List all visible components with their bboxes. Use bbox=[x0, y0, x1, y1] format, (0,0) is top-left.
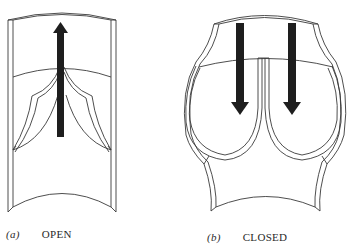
cusp-left bbox=[186, 66, 262, 160]
vessel-top-rim bbox=[214, 16, 318, 25]
panel-b-caption: (b)CLOSED bbox=[207, 231, 287, 243]
backflow-arrow-down-right-icon bbox=[283, 23, 301, 115]
backflow-arrow-down-left-icon bbox=[231, 23, 249, 115]
leaflet-left bbox=[13, 67, 60, 152]
panel-b-tag: (b) bbox=[207, 231, 221, 243]
panel-b-label: CLOSED bbox=[243, 231, 288, 243]
coaptation-line bbox=[258, 58, 269, 108]
vessel-bottom-rim bbox=[216, 197, 315, 208]
leaflet-right bbox=[64, 67, 111, 152]
panel-a-tag: (a) bbox=[6, 228, 20, 240]
vessel-bottom-rim bbox=[13, 194, 111, 208]
panel-a-caption: (a)OPEN bbox=[6, 228, 72, 240]
closed-valve-illustration bbox=[184, 16, 345, 212]
vessel-wall-right bbox=[111, 20, 116, 212]
vessel-wall-left bbox=[8, 20, 13, 212]
flow-arrow-up-icon bbox=[53, 22, 68, 137]
sinus-line bbox=[199, 59, 333, 68]
panel-a-label: OPEN bbox=[42, 228, 72, 240]
vessel-top-rim bbox=[8, 13, 116, 20]
valve-diagram bbox=[0, 0, 347, 248]
cusp-right bbox=[265, 66, 341, 160]
